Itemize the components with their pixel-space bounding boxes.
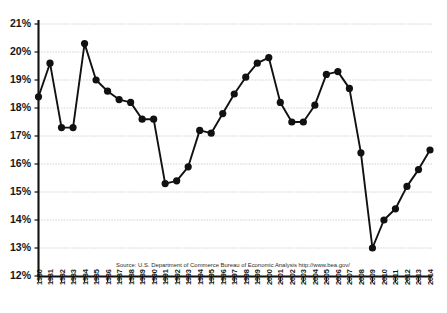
y-tick-label: 14% — [10, 213, 32, 225]
data-point — [173, 177, 180, 184]
y-tick-label: 17% — [10, 129, 32, 141]
data-point — [150, 116, 157, 123]
y-tick-label: 20% — [10, 45, 32, 57]
data-point — [288, 118, 295, 125]
data-point — [242, 74, 249, 81]
gridlines — [35, 24, 433, 276]
line-chart: 21%20%19%18%17%16%15%14%13%12% 198019811… — [0, 0, 447, 313]
data-point — [392, 205, 399, 212]
data-point — [346, 85, 353, 92]
source-note: Source: U.S. Department of Commerce Bure… — [116, 262, 350, 268]
data-point — [104, 88, 111, 95]
data-point — [369, 244, 376, 251]
data-point — [219, 110, 226, 117]
data-point — [415, 166, 422, 173]
data-point — [265, 54, 272, 61]
data-point — [277, 99, 284, 106]
data-point — [426, 146, 433, 153]
data-point — [185, 163, 192, 170]
data-point — [300, 118, 307, 125]
y-tick-label: 15% — [10, 185, 32, 197]
y-tick-label: 21% — [10, 17, 32, 29]
data-point — [311, 102, 318, 109]
data-point — [323, 71, 330, 78]
data-point — [127, 99, 134, 106]
chart-container: 21%20%19%18%17%16%15%14%13%12% 198019811… — [0, 0, 447, 313]
data-point — [208, 130, 215, 137]
data-point — [254, 60, 261, 67]
data-point — [69, 124, 76, 131]
data-point — [231, 90, 238, 97]
y-tick-label: 16% — [10, 157, 32, 169]
data-point — [46, 60, 53, 67]
data-series-line — [39, 44, 431, 248]
y-tick-label: 19% — [10, 73, 32, 85]
data-point — [403, 183, 410, 190]
y-tick-label: 18% — [10, 101, 32, 113]
data-point — [81, 40, 88, 47]
y-tick-label: 13% — [10, 241, 32, 253]
y-axis-tick-labels: 21%20%19%18%17%16%15%14%13%12% — [10, 17, 32, 281]
y-tick-label: 12% — [10, 269, 32, 281]
data-point — [139, 116, 146, 123]
data-point — [92, 76, 99, 83]
data-point — [380, 216, 387, 223]
data-point — [58, 124, 65, 131]
data-point — [357, 149, 364, 156]
data-point — [116, 96, 123, 103]
data-point — [196, 127, 203, 134]
data-point — [162, 180, 169, 187]
data-point — [334, 68, 341, 75]
data-point — [35, 93, 42, 100]
